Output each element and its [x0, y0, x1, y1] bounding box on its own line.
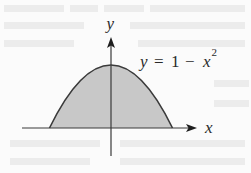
equation-minus: −	[185, 52, 195, 71]
equation-one: 1	[171, 52, 180, 71]
y-axis-label: y	[105, 14, 115, 33]
x-axis-label: x	[204, 118, 213, 137]
equation-lhs: y	[138, 52, 148, 71]
equation-label: y = 1 − x 2	[138, 46, 217, 71]
equation-exponent: 2	[212, 46, 218, 58]
equation-equals: =	[154, 52, 164, 71]
parabola-diagram: y x y = 1 − x 2	[0, 0, 251, 173]
equation-variable: x	[202, 52, 211, 71]
